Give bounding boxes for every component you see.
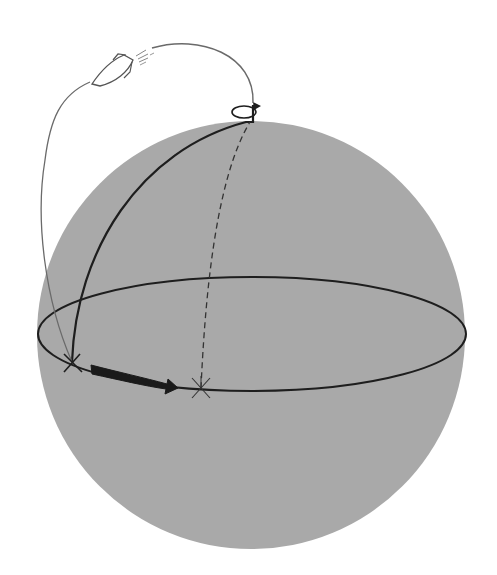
diagram-svg [0,0,497,575]
sphere [37,121,465,549]
rocket-icon [92,50,154,86]
rotation-arrow-icon [232,102,261,118]
trajectory-upper [152,44,253,103]
coriolis-diagram [0,0,497,575]
